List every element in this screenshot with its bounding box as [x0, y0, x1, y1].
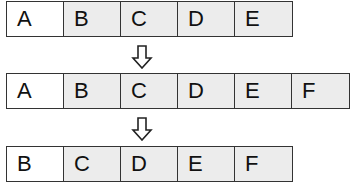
queue-cell: F [292, 74, 349, 108]
queue-cell: C [121, 2, 178, 36]
queue-row-after-enqueue: A B C D E F [6, 73, 350, 109]
down-arrow-icon [131, 117, 153, 141]
queue-cell: F [235, 147, 292, 181]
queue-cell: B [7, 147, 64, 181]
queue-cell: D [178, 74, 235, 108]
queue-cell: A [7, 2, 64, 36]
queue-cell: C [64, 147, 121, 181]
queue-cell: E [235, 74, 292, 108]
queue-cell: E [178, 147, 235, 181]
queue-cell: A [7, 74, 64, 108]
queue-row-after-dequeue: B C D E F [6, 146, 293, 182]
down-arrow-icon [131, 45, 153, 69]
queue-cell: D [121, 147, 178, 181]
queue-cell: E [235, 2, 292, 36]
queue-row-initial: A B C D E [6, 1, 293, 37]
queue-cell: B [64, 74, 121, 108]
queue-cell: B [64, 2, 121, 36]
queue-cell: C [121, 74, 178, 108]
queue-cell: D [178, 2, 235, 36]
